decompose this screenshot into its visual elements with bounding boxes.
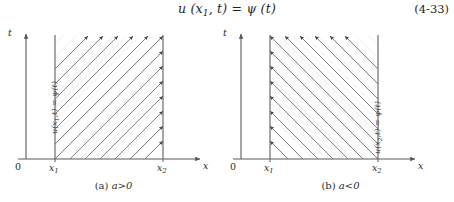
equation-function: u (178, 1, 186, 16)
figure-a-t-axis-label: t (8, 28, 12, 38)
figure-b-tick-label-x2: x2 (372, 163, 382, 175)
equation-rhs: ψ (t) (246, 1, 276, 16)
equation-number: (4-33) (414, 2, 449, 16)
figure-a-panel: t x 0 x1 x2 u(x1,t) = ψ(t) (a) a>0 (0, 22, 227, 202)
figure-a-caption-condition: a>0 (112, 180, 133, 191)
figure-b-t-axis-label: t (223, 28, 227, 38)
equation-formula: u (x1, t) = ψ (t) (0, 1, 454, 18)
figure-a-tick-label-x1: x1 (49, 163, 59, 175)
figure-a-origin-label: 0 (15, 162, 21, 172)
figure-b-origin-label: 0 (230, 162, 236, 172)
figure-b-boundary-condition-label: u(x2,t) = ψ(t) (374, 101, 383, 154)
figure-b-caption-index: (b) (321, 180, 335, 191)
figure-a-tick-label-x2: x2 (157, 163, 167, 175)
figure-b-plot (227, 22, 454, 202)
equation-lhs-args: (x1, t) (190, 1, 227, 16)
figure-b-caption: (b) a<0 (227, 180, 454, 191)
figure-b-x-axis-label: x (418, 161, 423, 171)
figure-a-x-axis-label: x (203, 161, 208, 171)
figure-b-panel: t x 0 x1 x2 u(x2,t) = ψ(t) (b) a<0 (227, 22, 454, 202)
figure-a-boundary-condition-label: u(x1,t) = ψ(t) (51, 81, 60, 134)
equation-equals: = (232, 1, 247, 16)
figure-a-plot (0, 22, 227, 202)
figure-a-caption: (a) a>0 (0, 180, 227, 191)
figure-a-caption-index: (a) (95, 180, 109, 191)
figure-b-caption-condition: a<0 (339, 180, 360, 191)
figure-b-tick-label-x1: x1 (264, 163, 274, 175)
equation-row: u (x1, t) = ψ (t) (4-33) (0, 0, 454, 22)
